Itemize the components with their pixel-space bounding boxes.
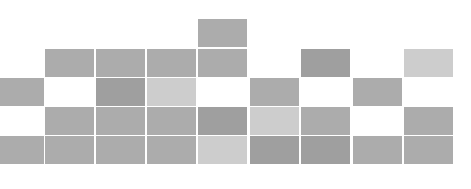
grid-block-r1-c1 [45,49,94,77]
grid-block-r3-c8 [404,107,453,135]
grid-block-r2-c5 [250,78,299,106]
grid-block-r2-c7 [353,78,402,106]
grid-block-r1-c4 [198,49,247,77]
grid-block-r4-c4 [198,136,247,164]
grid-block-r3-c5 [250,107,299,135]
grid-block-r4-c0 [0,136,44,164]
block-grid [0,0,471,189]
grid-block-r3-c3 [147,107,196,135]
grid-block-r4-c6 [301,136,350,164]
grid-block-r1-c2 [96,49,145,77]
grid-block-r4-c1 [45,136,94,164]
grid-block-r1-c3 [147,49,196,77]
grid-block-r1-c6 [301,49,350,77]
grid-block-r2-c2 [96,78,145,106]
grid-block-r0-c4 [198,19,247,47]
grid-block-r4-c5 [250,136,299,164]
grid-block-r4-c7 [353,136,402,164]
grid-block-r3-c4 [198,107,247,135]
grid-block-r4-c3 [147,136,196,164]
grid-block-r3-c6 [301,107,350,135]
grid-block-r3-c1 [45,107,94,135]
grid-block-r1-c8 [404,49,453,77]
grid-block-r2-c3 [147,78,196,106]
grid-block-r4-c2 [96,136,145,164]
grid-block-r4-c8 [404,136,453,164]
grid-block-r2-c0 [0,78,44,106]
grid-block-r3-c2 [96,107,145,135]
